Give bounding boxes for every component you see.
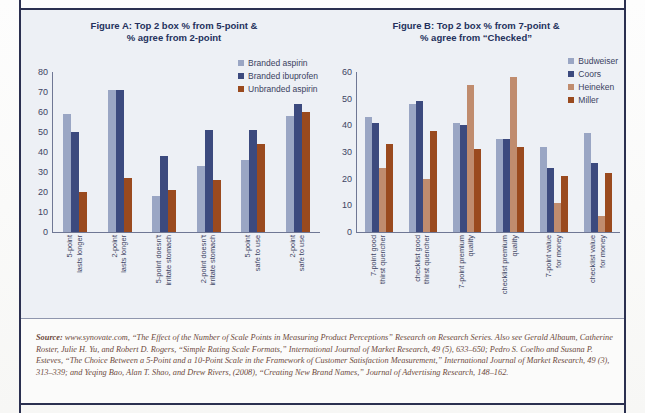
legend-item-budweiser: Budweiser	[568, 56, 618, 66]
bar-group	[53, 72, 98, 232]
source-label: Source:	[36, 333, 63, 342]
x-axis-label-group: 7-point valuefor money	[532, 235, 576, 315]
y-axis-tick-label: 50	[38, 127, 48, 137]
bar	[302, 112, 310, 232]
bar	[453, 123, 460, 232]
bar	[241, 160, 249, 232]
x-axis-label-group: checklist premiumquality	[488, 235, 532, 315]
bar	[294, 104, 302, 232]
bar	[460, 125, 467, 232]
bar	[365, 117, 372, 232]
x-axis-label-group: 5-pointlasts longer	[53, 235, 98, 315]
x-axis-label-group: 2-point doesn'tirritate stomach	[187, 235, 232, 315]
bar-group	[357, 72, 401, 232]
figure-a-y-axis: 80706050403020100	[26, 72, 52, 232]
x-axis-tick-label: checklist good	[414, 235, 423, 282]
y-axis-tick-label: 40	[342, 120, 352, 130]
x-axis-tick-label: thirst quencher	[423, 235, 432, 284]
y-axis-tick-label: 20	[342, 174, 352, 184]
bar	[409, 104, 416, 232]
legend-label: Budweiser	[578, 56, 618, 66]
x-axis-tick-label: 5-point doesn't	[155, 235, 164, 283]
figure-page: Figure A: Top 2 box % from 5-point & % a…	[0, 0, 645, 413]
bar	[605, 173, 612, 232]
x-axis-tick-label: irritate stomach	[165, 235, 174, 286]
bar-group	[276, 72, 321, 232]
figure-a-title: Figure A: Top 2 box % from 5-point & % a…	[26, 20, 322, 44]
x-axis-tick-label: 7-point value	[545, 235, 554, 277]
bar-group	[231, 72, 276, 232]
y-axis-tick-label: 20	[38, 187, 48, 197]
bar	[503, 139, 510, 232]
y-axis-tick-label: 60	[38, 107, 48, 117]
x-axis-tick-label: 5-point	[244, 235, 253, 258]
bar	[205, 130, 213, 232]
figure-b-x-labels: 7-point goodthirst quencherchecklist goo…	[357, 235, 620, 315]
y-axis-tick-label: 60	[342, 67, 352, 77]
bar	[554, 203, 561, 232]
bar	[108, 90, 116, 232]
bar	[63, 114, 71, 232]
legend-swatch-icon	[568, 58, 574, 64]
figure-b-bars	[357, 72, 620, 232]
x-axis-tick-label: lasts longer	[76, 235, 85, 273]
bar	[116, 90, 124, 232]
x-axis-tick-label: 2-point doesn't	[200, 235, 209, 283]
x-axis-label-group: 5-point doesn'tirritate stomach	[142, 235, 187, 315]
x-axis-tick-label: checklist value	[589, 235, 598, 283]
bar	[584, 133, 591, 232]
x-axis-label-group: 2-pointsafe to use	[276, 235, 321, 315]
bar	[213, 180, 221, 232]
bar-group	[142, 72, 187, 232]
bar	[547, 168, 554, 232]
bar	[71, 132, 79, 232]
bar-group	[98, 72, 143, 232]
bar	[496, 139, 503, 232]
bar	[379, 168, 386, 232]
figure-b-plot: 6050403020100 7-point goodthirst quenche…	[330, 72, 622, 250]
y-axis-tick-label: 50	[342, 94, 352, 104]
x-axis-label-group: 5-pointsafe to use	[231, 235, 276, 315]
x-axis-tick-label: for money	[555, 235, 564, 268]
figure-a-x-labels: 5-pointlasts longer2-pointlasts longer5-…	[53, 235, 320, 315]
y-axis-tick-label: 30	[38, 167, 48, 177]
x-axis-tick-label: thirst quencher	[379, 235, 388, 284]
y-axis-tick-label: 10	[38, 207, 48, 217]
x-axis-tick-label: lasts longer	[120, 235, 129, 273]
bar	[416, 101, 423, 232]
y-axis-tick-label: 0	[43, 227, 48, 237]
figure-a-title-line2: % agree from 2-point	[26, 32, 322, 44]
bar	[423, 179, 430, 232]
bar	[249, 130, 257, 232]
bar	[79, 192, 87, 232]
bar	[430, 131, 437, 232]
x-axis-tick-label: for money	[599, 235, 608, 268]
y-axis-tick-label: 80	[38, 67, 48, 77]
x-axis-label-group: checklist valuefor money	[576, 235, 620, 315]
figure-b-chart: Figure B: Top 2 box % from 7-point & % a…	[330, 14, 622, 314]
figure-b-title-line2: % agree from “Checked”	[330, 32, 622, 44]
figure-a-chart: Figure A: Top 2 box % from 5-point & % a…	[26, 14, 322, 314]
x-axis-label-group: 2-pointlasts longer	[98, 235, 143, 315]
x-axis-label-group: 7-point premiumquality	[445, 235, 489, 315]
legend-swatch-icon	[238, 60, 244, 66]
bar	[257, 144, 265, 232]
x-axis-tick-label: checklist premium	[501, 235, 510, 294]
figure-a-bars	[53, 72, 320, 232]
x-axis-tick-label: safe to use	[298, 235, 307, 271]
frame-border-bottom	[19, 403, 626, 405]
figure-b-title: Figure B: Top 2 box % from 7-point & % a…	[330, 20, 622, 44]
y-axis-tick-label: 70	[38, 87, 48, 97]
x-axis-tick-label: 2-point	[111, 235, 120, 258]
legend-item-branded-aspirin: Branded aspirin	[238, 58, 318, 68]
bar	[160, 156, 168, 232]
x-axis-tick-label: irritate stomach	[209, 235, 218, 286]
y-axis-tick-label: 40	[38, 147, 48, 157]
y-axis-tick-label: 30	[342, 147, 352, 157]
figure-b-x-axis-line	[356, 232, 620, 233]
bar	[540, 147, 547, 232]
source-citation: Source: www.synovate.com, “The Effect of…	[36, 332, 614, 378]
bar	[591, 163, 598, 232]
y-axis-tick-label: 10	[342, 200, 352, 210]
bar	[598, 216, 605, 232]
